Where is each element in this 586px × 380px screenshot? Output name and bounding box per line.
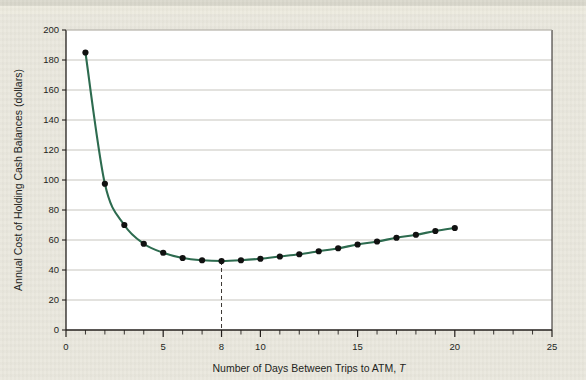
x-tick-label-15: 15 — [352, 341, 363, 352]
y-tick-label-100: 100 — [43, 174, 59, 185]
data-point — [413, 232, 419, 238]
y-tick-label-60: 60 — [48, 234, 59, 245]
data-point — [199, 257, 205, 263]
y-axis-title: Annual Cost of Holding Cash Balances (do… — [12, 69, 24, 291]
data-point — [102, 181, 108, 187]
data-point — [316, 248, 322, 254]
x-tick-label-25: 25 — [547, 341, 558, 352]
y-tick-label-40: 40 — [48, 264, 59, 275]
y-tick-label-140: 140 — [43, 114, 59, 125]
y-axis: 020406080100120140160180200 — [43, 24, 66, 335]
y-tick-label-200: 200 — [43, 24, 59, 35]
data-point — [257, 256, 263, 262]
data-point — [277, 253, 283, 259]
x-axis-minor-ticks — [66, 330, 552, 337]
y-tick-label-120: 120 — [43, 144, 59, 155]
y-tick-label-160: 160 — [43, 84, 59, 95]
x-axis-title-main: Number of Days Between Trips to ATM, — [213, 362, 400, 374]
x-axis-title: Number of Days Between Trips to ATM, T — [213, 362, 408, 374]
data-point — [218, 258, 224, 264]
y-tick-label-80: 80 — [48, 204, 59, 215]
data-point — [160, 250, 166, 256]
line-chart: 02040608010012014016018020005810152025Nu… — [0, 0, 586, 380]
x-tick-label-20: 20 — [450, 341, 461, 352]
y-tick-label-20: 20 — [48, 294, 59, 305]
data-point — [141, 241, 147, 247]
data-point — [355, 241, 361, 247]
chart-figure: 02040608010012014016018020005810152025Nu… — [0, 0, 586, 380]
data-point — [82, 49, 88, 55]
x-axis-title-symbol: T — [399, 362, 407, 374]
x-axis-labels: 05810152025 — [63, 341, 557, 352]
data-point — [180, 255, 186, 261]
y-tick-label-0: 0 — [54, 324, 59, 335]
data-point — [296, 251, 302, 257]
data-point — [452, 225, 458, 231]
y-tick-label-180: 180 — [43, 54, 59, 65]
x-tick-label-10: 10 — [255, 341, 266, 352]
x-tick-label-8: 8 — [219, 341, 224, 352]
x-tick-label-0: 0 — [63, 341, 68, 352]
data-point — [393, 235, 399, 241]
data-point — [121, 222, 127, 228]
data-point — [432, 228, 438, 234]
data-point — [335, 245, 341, 251]
data-point — [238, 257, 244, 263]
data-point — [374, 238, 380, 244]
x-tick-label-5: 5 — [161, 341, 166, 352]
